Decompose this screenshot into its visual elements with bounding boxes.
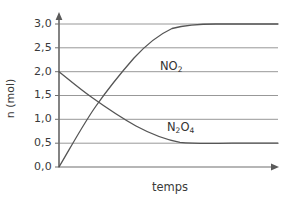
y-tick-label-3-0: 3,0	[26, 17, 52, 30]
x-axis-label: temps	[152, 180, 188, 194]
y-tick-label-1-5: 1,5	[26, 88, 52, 101]
y-tick-label-1-0: 1,0	[26, 112, 52, 125]
right-arrow-icon	[271, 164, 279, 171]
y-tick-label-0-0: 0,0	[26, 160, 52, 173]
y-axis-label: n (mol)	[4, 68, 17, 130]
series-annotation-no2: NO2	[160, 59, 182, 73]
y-tick-label-2-0: 2,0	[26, 65, 52, 78]
series-annotation-n2o4: N2O4	[167, 120, 194, 134]
chart-figure: 3,0 2,5 2,0 1,5 1,0 0,5 0,0 n (mol) temp…	[0, 0, 292, 201]
up-arrow-icon	[56, 12, 63, 20]
y-tick-label-0-5: 0,5	[26, 136, 52, 149]
y-tick-label-2-5: 2,5	[26, 41, 52, 54]
